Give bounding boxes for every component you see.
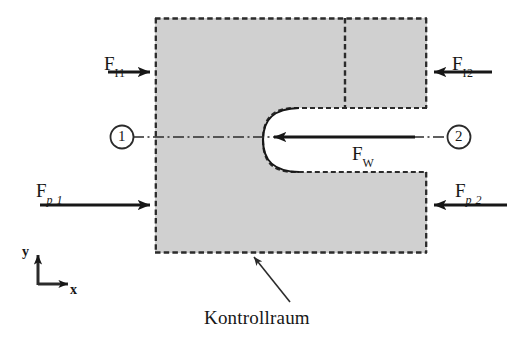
- label-force-pressure-right: Fp 2: [455, 181, 482, 203]
- label-force-pressure-right-symbol: F: [455, 180, 466, 201]
- label-force-drag-subscript: W: [363, 156, 375, 170]
- label-force-impulse-left-subscript: I1: [115, 66, 126, 80]
- label-force-pressure-left-subscript: p 1: [47, 193, 63, 207]
- label-force-drag: FW: [352, 144, 374, 166]
- immersed-body: [263, 108, 427, 172]
- section-marker-1-label: 1: [118, 129, 126, 144]
- diagram-vector-layer: [0, 0, 527, 344]
- caption-leader-line: [254, 257, 290, 302]
- label-force-pressure-left-symbol: F: [36, 180, 47, 201]
- label-force-impulse-left: FI1: [104, 54, 125, 76]
- section-marker-2-label: 2: [455, 129, 463, 144]
- control-volume-caption: Kontrollraum: [204, 308, 310, 327]
- label-force-impulse-right-symbol: F: [452, 53, 463, 74]
- label-force-impulse-left-symbol: F: [104, 53, 115, 74]
- label-force-impulse-right: FI2: [452, 54, 473, 76]
- label-force-impulse-right-subscript: I2: [463, 66, 474, 80]
- y-axis-label: y: [22, 245, 29, 259]
- label-force-pressure-right-subscript: p 2: [466, 193, 482, 207]
- coordinate-axes: [38, 255, 68, 285]
- diagram-canvas: FI1 FI2 Fp 1 Fp 2 FW 1 2 y x Kontrollrau…: [0, 0, 527, 344]
- x-axis-label: x: [70, 283, 77, 297]
- label-force-drag-symbol: F: [352, 143, 363, 164]
- label-force-pressure-left: Fp 1: [36, 181, 63, 203]
